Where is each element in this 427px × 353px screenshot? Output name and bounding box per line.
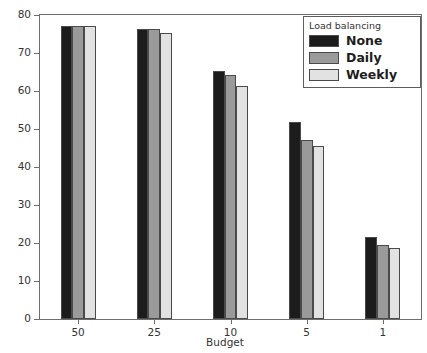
x-axis-tick bbox=[307, 319, 308, 324]
legend-swatch-weekly bbox=[309, 69, 339, 81]
bar-none-1 bbox=[365, 237, 377, 319]
legend-item-daily: Daily bbox=[309, 50, 415, 65]
y-axis-tick: 60 bbox=[34, 91, 40, 92]
legend-label-daily: Daily bbox=[346, 50, 382, 65]
y-axis-tick-label: 30 bbox=[18, 198, 31, 210]
y-axis-tick: 30 bbox=[34, 205, 40, 206]
legend: Load balancing None Daily Weekly bbox=[303, 16, 421, 88]
y-axis-tick: 40 bbox=[34, 167, 40, 168]
bar-daily-10 bbox=[225, 75, 237, 319]
legend-swatch-none bbox=[309, 35, 339, 47]
bar-weekly-10 bbox=[236, 86, 248, 319]
legend-label-weekly: Weekly bbox=[346, 67, 397, 82]
x-axis-tick bbox=[231, 319, 232, 324]
bar-daily-25 bbox=[148, 29, 160, 319]
bar-daily-5 bbox=[301, 140, 313, 319]
y-axis-tick-label: 60 bbox=[18, 84, 31, 96]
legend-item-none: None bbox=[309, 33, 415, 48]
y-axis-tick-label: 50 bbox=[18, 122, 31, 134]
legend-label-none: None bbox=[346, 33, 382, 48]
bar-chart-figure: Accuracy percentage (100% = 2124 tweets)… bbox=[0, 0, 427, 353]
y-axis-tick-label: 0 bbox=[24, 312, 31, 324]
bar-none-5 bbox=[289, 122, 301, 319]
bar-none-50 bbox=[61, 26, 73, 319]
y-axis-tick: 10 bbox=[34, 281, 40, 282]
x-axis-tick bbox=[154, 319, 155, 324]
bar-daily-50 bbox=[72, 26, 84, 319]
y-axis-tick: 50 bbox=[34, 129, 40, 130]
y-axis-tick-label: 40 bbox=[18, 160, 31, 172]
legend-title: Load balancing bbox=[309, 20, 415, 31]
y-axis-tick: 70 bbox=[34, 53, 40, 54]
y-axis-tick: 20 bbox=[34, 243, 40, 244]
x-axis-label: Budget bbox=[30, 336, 420, 348]
y-axis-tick: 0 bbox=[34, 319, 40, 320]
x-axis-tick bbox=[383, 319, 384, 324]
y-axis-tick-label: 80 bbox=[18, 8, 31, 20]
y-axis-tick: 80 bbox=[34, 15, 40, 16]
y-axis-tick-label: 20 bbox=[18, 236, 31, 248]
bar-none-25 bbox=[137, 29, 149, 319]
legend-swatch-daily bbox=[309, 52, 339, 64]
x-axis-tick bbox=[78, 319, 79, 324]
bar-weekly-50 bbox=[84, 26, 96, 319]
legend-item-weekly: Weekly bbox=[309, 67, 415, 82]
y-axis-tick-label: 70 bbox=[18, 46, 31, 58]
bar-daily-1 bbox=[377, 245, 389, 319]
y-axis-tick-label: 10 bbox=[18, 274, 31, 286]
bar-weekly-5 bbox=[313, 146, 325, 319]
bar-none-10 bbox=[213, 71, 225, 319]
bar-weekly-1 bbox=[389, 248, 401, 319]
bar-weekly-25 bbox=[160, 33, 172, 319]
